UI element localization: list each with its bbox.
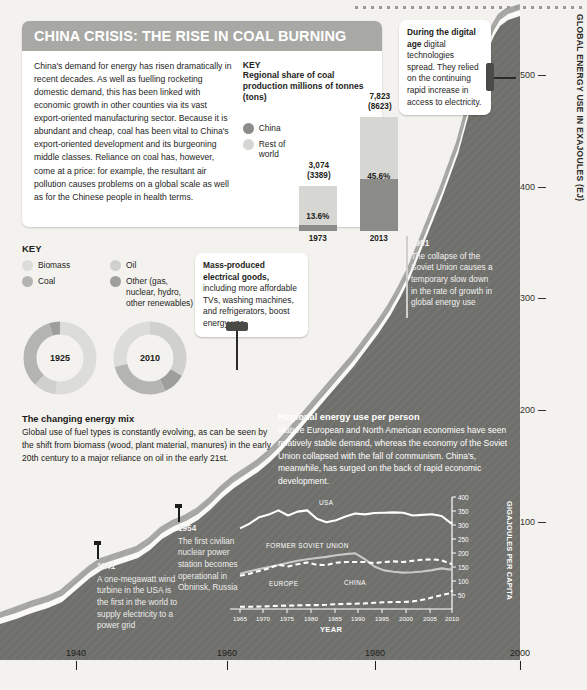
leader-line-digital: [491, 77, 516, 79]
callout-mass-body: including more affordable TVs, washing m…: [203, 283, 297, 328]
x-tick-1980: 1980: [365, 648, 385, 658]
svg-text:EUROPE: EUROPE: [269, 580, 298, 587]
bar-total-2013: 7,823(8623): [357, 92, 403, 113]
svg-text:1965: 1965: [233, 615, 247, 622]
fuel-swatch-coal: [22, 276, 33, 287]
leader-cap-1941: [94, 541, 101, 545]
annotation-1941-body: A one-megawatt wind turbine in the USA i…: [97, 575, 177, 631]
energy-mix-heading: The changing energy mix: [22, 414, 272, 424]
coal-key-block: KEY Regional share of coal production mi…: [243, 60, 372, 241]
bar-1973: 3,074(3389) 13.6% 1973: [299, 186, 337, 231]
fuel-swatch-biomass: [22, 260, 33, 271]
annotation-1991-body: The collapse of the Soviet Union causes …: [411, 252, 492, 308]
legend-swatch-china: [243, 123, 254, 134]
donut-chart-2010: 2010: [108, 316, 192, 400]
x-tick-1940: 1940: [66, 648, 86, 658]
y-axis-title: GLOBAL ENERGY USE IN EXAJOULES (EJ): [575, 14, 585, 201]
bar-year-2013: 2013: [360, 234, 398, 243]
svg-text:300: 300: [458, 522, 469, 529]
leader-cap-1954: [175, 504, 182, 508]
x-tick-2000: 2000: [510, 648, 530, 658]
bar-pct-2013: 45.6%: [360, 172, 398, 181]
legend-swatch-rest-of-world: [243, 139, 254, 150]
leader-knob-mass: [226, 322, 248, 331]
bar-segment-china-1973: [299, 225, 337, 231]
donut-chart-1925: 1925: [18, 316, 102, 400]
legend-item-china: China: [243, 123, 305, 134]
fuel-key-title: KEY: [22, 243, 202, 254]
svg-text:2010: 2010: [445, 615, 459, 622]
callout-mass-produced-goods: Mass-produced electrical goods, includin…: [195, 253, 308, 337]
callout-mass-bold: Mass-produced electrical goods,: [203, 260, 269, 282]
fuel-key: KEY Biomass Coal Oil Other: [22, 243, 202, 314]
bar-2013: 7,823(8623) 45.6% 2013: [360, 117, 398, 231]
regional-body: Mature European and North American econo…: [278, 424, 510, 488]
fuel-key-item-coal: Coal: [22, 276, 110, 287]
bar-year-1973: 1973: [299, 234, 337, 243]
top-dotted-rule: [355, 6, 587, 9]
svg-text:150: 150: [458, 564, 469, 571]
legend-item-rest-of-world: Rest of world: [243, 139, 305, 160]
leader-knob-digital: [486, 63, 494, 91]
svg-text:2005: 2005: [423, 615, 437, 622]
y-tick-300: 300: [495, 293, 535, 303]
svg-text:1970: 1970: [256, 615, 270, 622]
intro-paragraph: China's demand for energy has risen dram…: [34, 60, 233, 241]
annotation-1941: 1941 A one-megawatt wind turbine in the …: [97, 561, 181, 632]
annotation-1991-year: 1991: [411, 238, 495, 250]
inset-x-axis-label: YEAR: [320, 625, 342, 634]
leader-line-1991: [406, 236, 408, 318]
x-tick-1960: 1960: [217, 648, 237, 658]
svg-text:FORMER SOVIET UNION: FORMER SOVIET UNION: [266, 542, 349, 549]
fuel-swatch-oil: [110, 260, 121, 271]
legend-label-china: China: [259, 123, 281, 134]
donut-label-2010: 2010: [108, 316, 192, 400]
legend-label-rest-of-world: Rest of world: [259, 139, 299, 160]
svg-text:350: 350: [458, 508, 469, 515]
fuel-label-other: Other (gas, nuclear, hydro, other renewa…: [126, 276, 198, 309]
svg-text:1990: 1990: [351, 615, 365, 622]
svg-text:USA: USA: [319, 499, 334, 506]
energy-mix-block: The changing energy mix Global use of fu…: [22, 414, 272, 464]
bar-total-1973: 3,074(3389): [296, 161, 342, 182]
svg-text:100: 100: [458, 578, 469, 585]
y-tick-500: 500: [495, 70, 535, 80]
annotation-1941-year: 1941: [97, 561, 181, 573]
donut-label-1925: 1925: [18, 316, 102, 400]
leader-line-mass: [236, 330, 238, 370]
inset-y-axis-label: GIGAJOULES PER CAPITA: [505, 501, 514, 600]
regional-energy-inset-chart: 50 100 150 200 250 300 350 400: [224, 487, 512, 632]
svg-text:50: 50: [458, 592, 466, 599]
energy-mix-body: Global use of fuel types is constantly e…: [22, 426, 272, 464]
svg-text:2000: 2000: [399, 615, 413, 622]
svg-text:1980: 1980: [304, 615, 318, 622]
bar-pct-1973: 13.6%: [299, 212, 337, 221]
key-heading: KEY: [243, 60, 372, 70]
svg-text:1975: 1975: [280, 615, 294, 622]
coal-production-bar-chart: China Rest of world 3,074(3389): [243, 113, 372, 241]
bar-segment-china-2013: [360, 179, 398, 231]
fuel-key-item-biomass: Biomass: [22, 260, 110, 271]
callout-digital-age: During the digital age digital technolog…: [399, 20, 491, 115]
key-subheading: Regional share of coal production millio…: [243, 70, 372, 104]
svg-text:200: 200: [458, 550, 469, 557]
regional-energy-block: Regional energy use per person Mature Eu…: [278, 412, 510, 488]
svg-text:CHINA: CHINA: [344, 579, 366, 586]
fuel-label-oil: Oil: [126, 260, 136, 271]
fuel-label-biomass: Biomass: [38, 260, 70, 271]
svg-text:1985: 1985: [328, 615, 342, 622]
page-title: CHINA CRISIS: THE RISE IN COAL BURNING: [34, 28, 346, 44]
bar-segment-rest-2013: [360, 117, 398, 179]
annotation-1991: 1991 The collapse of the Soviet Union ca…: [411, 238, 495, 309]
fuel-swatch-other: [110, 276, 121, 287]
fuel-key-item-other: Other (gas, nuclear, hydro, other renewa…: [110, 276, 198, 309]
main-panel: CHINA CRISIS: THE RISE IN COAL BURNING C…: [22, 21, 382, 227]
svg-text:1995: 1995: [375, 615, 389, 622]
fuel-label-coal: Coal: [38, 276, 55, 287]
y-tick-400: 400: [495, 182, 535, 192]
svg-text:250: 250: [458, 536, 469, 543]
fuel-key-item-oil: Oil: [110, 260, 198, 271]
regional-heading: Regional energy use per person: [278, 412, 510, 422]
svg-text:400: 400: [458, 494, 469, 501]
panel-title-bar: CHINA CRISIS: THE RISE IN COAL BURNING: [22, 21, 382, 51]
